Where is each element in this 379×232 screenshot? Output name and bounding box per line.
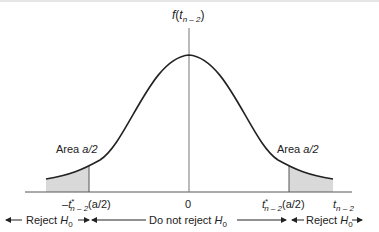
left-critical-label: –t*n – 2(a/2) xyxy=(62,197,111,213)
x-axis-label: tn – 2 xyxy=(333,198,354,213)
center-tick-label: 0 xyxy=(185,198,191,210)
do-not-reject-label: Do not reject H0 xyxy=(149,214,227,229)
right-rejection-area xyxy=(289,166,333,192)
right-reject-label: Reject H0 xyxy=(306,214,353,229)
left-reject-label: Reject H0 xyxy=(26,214,73,229)
left-area-label: Area a/2 xyxy=(56,143,98,155)
y-axis-label: f(tn – 2) xyxy=(172,8,204,24)
t-distribution-diagram: f(tn – 2) Area a/2 Area a/2 –t*n – 2(a/2… xyxy=(0,0,379,232)
left-rejection-area xyxy=(46,166,89,192)
right-critical-label: t*n – 2(a/2) xyxy=(262,197,305,213)
right-area-label: Area a/2 xyxy=(277,143,319,155)
